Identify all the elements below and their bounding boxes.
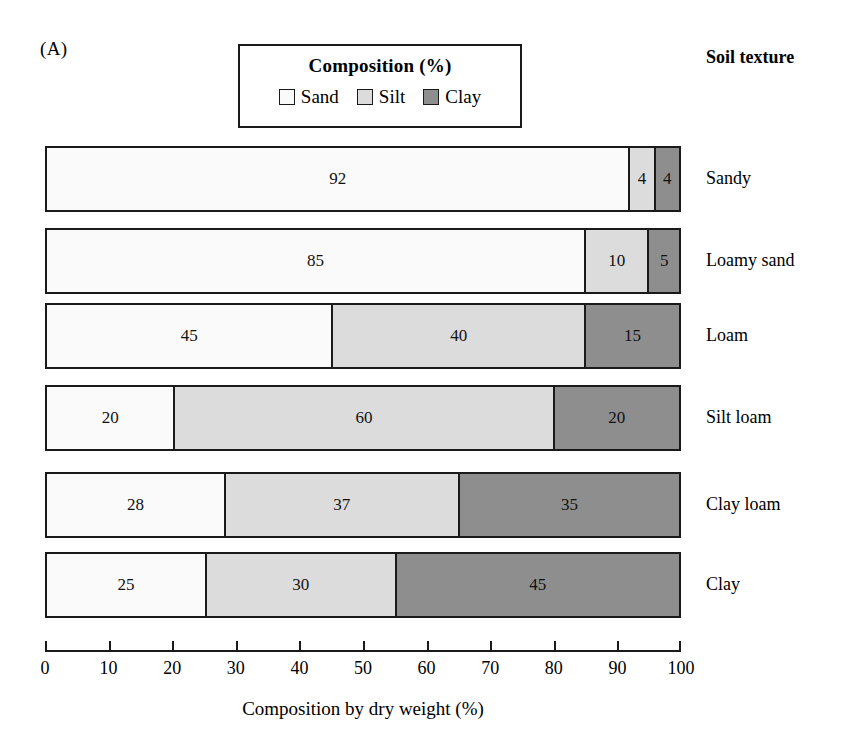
bar-segment-silt: 60	[173, 387, 552, 449]
category-label: Loamy sand	[706, 250, 794, 271]
silt-swatch-icon	[357, 89, 373, 105]
bar-segment-silt: 10	[584, 230, 647, 292]
axis-tick-label: 60	[418, 658, 436, 679]
legend-box: Composition (%) SandSiltClay	[238, 44, 522, 128]
axis-tick	[363, 641, 365, 650]
axis-tick	[299, 641, 301, 650]
bar-segment-sand: 45	[47, 305, 331, 367]
category-label: Loam	[706, 325, 748, 346]
legend-label-sand: Sand	[301, 86, 339, 108]
category-label: Sandy	[706, 168, 751, 189]
axis-tick-label: 40	[290, 658, 308, 679]
clay-swatch-icon	[423, 89, 439, 105]
bar-row: 85105	[45, 228, 681, 294]
axis-tick-label: 50	[354, 658, 372, 679]
legend-label-clay: Clay	[445, 86, 481, 108]
soil-texture-column-header: Soil texture	[706, 47, 794, 68]
legend-label-silt: Silt	[379, 86, 405, 108]
axis-tick-label: 90	[608, 658, 626, 679]
bar-segment-silt: 4	[628, 148, 653, 210]
axis-tick	[490, 641, 492, 650]
bar-row: 206020	[45, 385, 681, 451]
category-label: Clay loam	[706, 494, 781, 515]
x-axis-title: Composition by dry weight (%)	[45, 698, 681, 720]
bar-segment-sand: 85	[47, 230, 584, 292]
bar-segment-silt: 30	[205, 554, 395, 616]
axis-tick-label: 100	[668, 658, 695, 679]
axis-tick	[679, 641, 681, 650]
sand-swatch-icon	[279, 89, 295, 105]
bar-segment-clay: 35	[458, 474, 679, 536]
bar-segment-clay: 45	[395, 554, 679, 616]
figure-panel-a: (A) Soil texture Composition (%) SandSil…	[0, 0, 866, 746]
axis-tick	[427, 641, 429, 650]
axis-tick	[172, 641, 174, 650]
legend-item-clay: Clay	[423, 86, 481, 108]
axis-tick-label: 30	[227, 658, 245, 679]
bar-segment-sand: 92	[47, 148, 628, 210]
bar-segment-clay: 20	[553, 387, 679, 449]
category-label: Clay	[706, 574, 740, 595]
axis-tick	[236, 641, 238, 650]
panel-label: (A)	[40, 38, 67, 60]
bar-row: 283735	[45, 472, 681, 538]
bar-row: 454015	[45, 303, 681, 369]
axis-tick-label: 20	[163, 658, 181, 679]
legend-item-silt: Silt	[357, 86, 405, 108]
x-axis: 0102030405060708090100	[45, 650, 681, 652]
category-label: Silt loam	[706, 407, 772, 428]
bar-segment-clay: 15	[584, 305, 679, 367]
plot-area: 9244Sandy85105Loamy sand454015Loam206020…	[45, 140, 681, 652]
bar-segment-clay: 5	[647, 230, 679, 292]
axis-tick-label: 70	[481, 658, 499, 679]
bar-row: 253045	[45, 552, 681, 618]
bar-segment-sand: 25	[47, 554, 205, 616]
axis-tick	[45, 641, 47, 650]
axis-tick	[617, 641, 619, 650]
bar-segment-silt: 40	[331, 305, 584, 367]
bar-segment-silt: 37	[224, 474, 458, 536]
legend-item-sand: Sand	[279, 86, 339, 108]
bar-segment-clay: 4	[654, 148, 679, 210]
bar-row: 9244	[45, 146, 681, 212]
axis-tick-label: 0	[41, 658, 50, 679]
axis-tick	[109, 641, 111, 650]
bar-segment-sand: 20	[47, 387, 173, 449]
axis-tick-label: 10	[100, 658, 118, 679]
bar-segment-sand: 28	[47, 474, 224, 536]
legend-title: Composition (%)	[240, 55, 520, 77]
axis-tick-label: 80	[545, 658, 563, 679]
axis-tick	[554, 641, 556, 650]
legend-items: SandSiltClay	[240, 86, 520, 108]
